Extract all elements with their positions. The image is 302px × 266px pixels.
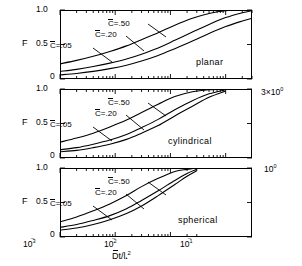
ytick-spherical-top: 1.0	[36, 163, 48, 172]
ytick-cylindrical-top: 1.0	[36, 84, 48, 93]
c-bar-symbol: C	[50, 42, 56, 50]
panel-spherical	[60, 168, 252, 237]
c-bar-symbol: C	[50, 121, 56, 129]
xtick-label-3: 10̅1	[180, 240, 193, 249]
xtick-label-1: 10̅3	[23, 240, 36, 249]
c-bar-symbol: C	[108, 99, 114, 107]
c-bar-symbol: C	[95, 110, 101, 118]
curve-label-planar-c05: C=.05	[50, 42, 72, 50]
ylabel-planar: F	[22, 39, 28, 48]
ytick-planar-zero: 0	[50, 72, 55, 81]
curve-label-spherical-c05: C=.05	[50, 200, 72, 208]
ytick-planar-top: 1.0	[36, 5, 48, 14]
ytick-cylindrical-mid: 0.5	[36, 118, 48, 127]
geometry-label-spherical: spherical	[178, 216, 218, 225]
curve-label-cylindrical-c50: C=.50	[108, 99, 130, 107]
curves-cylindrical	[60, 89, 252, 158]
curve-label-spherical-c50: C=.50	[108, 178, 130, 186]
c-bar-symbol: C	[95, 31, 101, 39]
curve-label-spherical-c20: C=.20	[95, 189, 117, 197]
c-bar-symbol: C	[95, 189, 101, 197]
x-axis-title: Dt/l•2	[112, 252, 131, 261]
geometry-label-cylindrical: cylindrical	[168, 137, 212, 146]
curve-label-cylindrical-c05: C=.05	[50, 121, 72, 129]
xtick-label-2: 10̅2	[104, 240, 117, 249]
curve-label-planar-c50: C=.50	[108, 20, 130, 28]
geometry-label-planar: planar	[196, 58, 223, 67]
right-end-label-cylindrical: 100	[264, 165, 277, 174]
c-bar-symbol: C	[108, 178, 114, 186]
curves-spherical	[60, 168, 252, 237]
figure-root: 1.0 F 0.5 0 planar C=.50 C=.20 C=.05 3×1…	[0, 0, 302, 266]
panel-planar	[60, 10, 252, 79]
ytick-planar-mid: 0.5	[36, 39, 48, 48]
curve-label-planar-c20: C=.20	[95, 31, 117, 39]
ylabel-cylindrical: F	[22, 118, 28, 127]
panel-cylindrical	[60, 89, 252, 158]
curve-label-cylindrical-c20: C=.20	[95, 110, 117, 118]
d-bar-symbol: D	[112, 252, 119, 261]
c-bar-symbol: C	[50, 200, 56, 208]
ytick-cylindrical-zero: 0	[50, 151, 55, 160]
curves-planar	[60, 10, 252, 79]
ytick-spherical-mid: 0.5	[36, 197, 48, 206]
ylabel-spherical: F	[22, 197, 28, 206]
ytick-spherical-zero: 0	[50, 230, 55, 239]
c-bar-symbol: C	[108, 20, 114, 28]
right-end-label-planar: 3×100	[261, 88, 283, 97]
